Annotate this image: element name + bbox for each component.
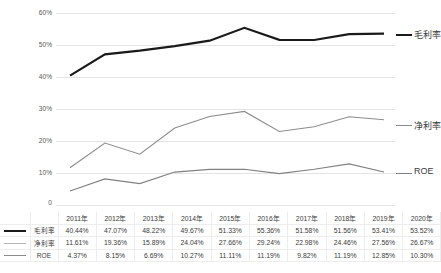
- series-label-net-margin: 净利率: [414, 119, 441, 132]
- table-cell: 11.19%: [326, 249, 364, 262]
- table-cell: 53.52%: [403, 224, 441, 237]
- table-cell: 10.27%: [173, 249, 211, 262]
- table-cell: 29.24%: [249, 237, 287, 250]
- table-cell: 9.82%: [288, 249, 326, 262]
- line-net-margin: [70, 111, 384, 167]
- series-lines: [0, 0, 441, 212]
- legend-label-net-margin: 净利率: [30, 237, 58, 250]
- series-label-roe: ROE: [414, 166, 434, 176]
- financial-ratios-chart: 60% 50% 40% 30% 20% 10% 0 毛利率 净利率 ROE: [0, 0, 441, 273]
- legend-swatch-roe: [0, 249, 30, 262]
- table-cell: 27.56%: [364, 237, 402, 250]
- table-cell: 51.58%: [288, 224, 326, 237]
- series-label-rule-net: [396, 125, 412, 126]
- table-cell: 40.44%: [58, 224, 96, 237]
- table-header-cell: 2011年: [58, 212, 96, 224]
- table-cell: 11.11%: [211, 249, 249, 262]
- table-cell: 11.61%: [58, 237, 96, 250]
- legend-label-roe: ROE: [30, 249, 58, 262]
- legend-line-icon: [4, 255, 26, 256]
- table-cell: 24.46%: [326, 237, 364, 250]
- legend-swatch-net-margin: [0, 237, 30, 250]
- table-cell: 22.98%: [288, 237, 326, 250]
- series-label-gross-margin: 毛利率: [414, 28, 441, 41]
- table-cell: 12.85%: [364, 249, 402, 262]
- table-header-cell: 2017年: [288, 212, 326, 224]
- table-cell: 27.66%: [211, 237, 249, 250]
- table-cell: 48.22%: [135, 224, 173, 237]
- table-cell: 51.33%: [211, 224, 249, 237]
- table-cell: 49.67%: [173, 224, 211, 237]
- legend-line-icon: [4, 230, 26, 232]
- data-table: 2011年 2012年 2013年 2014年 2015年 2016年 2017…: [0, 212, 441, 262]
- table-header-cell: 2019年: [364, 212, 402, 224]
- table-cell: 19.36%: [96, 237, 134, 250]
- line-gross-margin: [70, 28, 384, 76]
- table-cell: 6.69%: [135, 249, 173, 262]
- legend-label-gross-margin: 毛利率: [30, 224, 58, 237]
- table-cell: 47.07%: [96, 224, 134, 237]
- plot-area: 60% 50% 40% 30% 20% 10% 0 毛利率 净利率 ROE: [0, 0, 441, 212]
- data-table-area: 2011年 2012年 2013年 2014年 2015年 2016年 2017…: [0, 212, 441, 273]
- table-cell: 24.04%: [173, 237, 211, 250]
- table-row: 净利率 11.61% 19.36% 15.89% 24.04% 27.66% 2…: [0, 237, 441, 250]
- table-cell: 15.89%: [135, 237, 173, 250]
- table-header-cell: 2014年: [173, 212, 211, 224]
- table-header-cell: 2012年: [96, 212, 134, 224]
- table-header-cell: 2016年: [249, 212, 287, 224]
- table-cell: 51.56%: [326, 224, 364, 237]
- table-header-cell: 2018年: [326, 212, 364, 224]
- table-header-cell: 2020年: [403, 212, 441, 224]
- series-label-rule-gross: [396, 34, 412, 36]
- line-roe: [70, 164, 384, 191]
- table-header-cell: 2013年: [135, 212, 173, 224]
- header-name-spacer: [30, 212, 58, 224]
- table-row: 毛利率 40.44% 47.07% 48.22% 49.67% 51.33% 5…: [0, 224, 441, 237]
- table-cell: 8.15%: [96, 249, 134, 262]
- series-label-rule-roe: [396, 173, 412, 174]
- table-cell: 53.41%: [364, 224, 402, 237]
- table-cell: 26.67%: [403, 237, 441, 250]
- table-cell: 55.36%: [249, 224, 287, 237]
- table-cell: 10.30%: [403, 249, 441, 262]
- legend-swatch-gross-margin: [0, 224, 30, 237]
- legend-line-icon: [4, 243, 26, 244]
- table-cell: 4.37%: [58, 249, 96, 262]
- table-row: ROE 4.37% 8.15% 6.69% 10.27% 11.11% 11.1…: [0, 249, 441, 262]
- table-cell: 11.19%: [249, 249, 287, 262]
- header-swatch-spacer: [0, 212, 30, 224]
- table-header-row: 2011年 2012年 2013年 2014年 2015年 2016年 2017…: [0, 212, 441, 224]
- table-header-cell: 2015年: [211, 212, 249, 224]
